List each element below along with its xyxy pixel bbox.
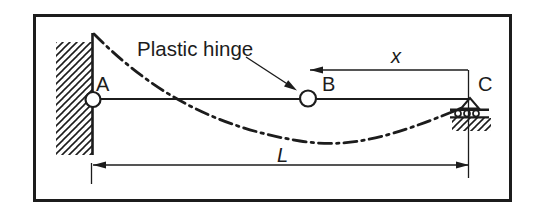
beam-diagram: Plastic hinge A B C x L xyxy=(0,0,537,216)
leader-arrow-line xyxy=(246,57,292,87)
label-dim-x: x xyxy=(390,45,402,67)
l-dimension-arrowhead-left xyxy=(93,161,106,168)
label-point-b: B xyxy=(322,73,336,95)
roller-wheels xyxy=(455,111,479,117)
diagram-frame xyxy=(35,16,511,201)
label-point-a: A xyxy=(96,73,110,95)
figure-canvas: Plastic hinge A B C x L xyxy=(0,0,537,216)
plastic-hinge-label: Plastic hinge xyxy=(137,37,253,60)
ground-hatching xyxy=(452,118,491,131)
label-dim-span: L xyxy=(277,144,288,166)
label-point-c: C xyxy=(478,73,493,95)
plastic-hinge-circle xyxy=(300,91,316,107)
leader-arrowhead xyxy=(284,80,297,90)
l-dimension-arrowhead-right xyxy=(456,161,469,168)
